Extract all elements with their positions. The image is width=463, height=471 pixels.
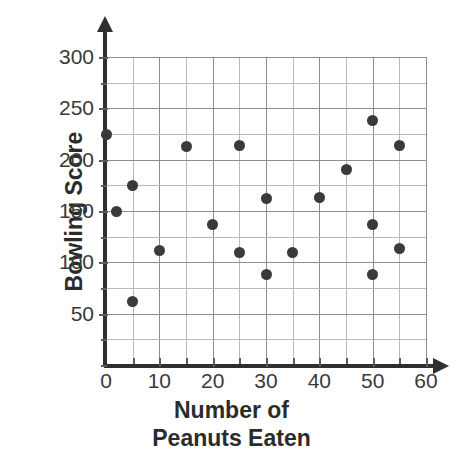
data-point — [154, 245, 165, 256]
data-point — [261, 193, 272, 204]
data-point — [101, 129, 112, 140]
gridline-horizontal-major — [106, 314, 426, 315]
x-axis-line — [104, 364, 438, 368]
x-axis-tick-label: 20 — [185, 369, 241, 393]
y-axis-tick-mark — [99, 57, 108, 59]
y-axis-tick-label: 150 — [36, 199, 94, 223]
x-axis-tick-label: 40 — [291, 369, 347, 393]
data-point — [287, 247, 298, 258]
x-axis-tick-label: 0 — [78, 369, 134, 393]
y-axis-minor-tick-mark — [101, 185, 107, 187]
y-axis-tick-label: 250 — [36, 96, 94, 120]
x-axis-minor-tick-mark — [186, 358, 188, 364]
data-point — [111, 206, 122, 217]
x-axis-tick-mark — [319, 358, 321, 367]
scatter-plot-figure: Bowling Score Number of Peanuts Eaten 50… — [0, 0, 463, 471]
y-axis-arrow-icon — [97, 16, 113, 32]
data-point — [181, 141, 192, 152]
gridline-horizontal-major — [106, 57, 426, 58]
data-point — [367, 219, 378, 230]
gridline-horizontal-major — [106, 108, 426, 109]
x-axis-minor-tick-mark — [399, 358, 401, 364]
y-axis-minor-tick-mark — [101, 237, 107, 239]
x-axis-minor-tick-mark — [293, 358, 295, 364]
x-axis-tick-label: 60 — [398, 369, 454, 393]
data-point — [234, 140, 245, 151]
plot-area — [106, 57, 426, 365]
data-point — [207, 219, 218, 230]
data-point — [394, 140, 405, 151]
x-axis-tick-mark — [266, 358, 268, 367]
data-point — [127, 180, 138, 191]
y-axis-tick-mark — [99, 160, 108, 162]
y-axis-minor-tick-mark — [101, 83, 107, 85]
data-point — [341, 164, 352, 175]
gridline-horizontal-minor — [106, 339, 426, 340]
gridline-horizontal-minor — [106, 83, 426, 84]
gridline-horizontal-minor — [106, 288, 426, 289]
gridline-horizontal-minor — [106, 134, 426, 135]
x-axis-tick-mark — [426, 358, 428, 367]
y-axis-line — [103, 30, 107, 367]
gridline-horizontal-major — [106, 160, 426, 161]
y-axis-minor-tick-mark — [101, 365, 107, 367]
y-axis-tick-label: 100 — [36, 250, 94, 274]
x-axis-tick-label: 30 — [238, 369, 294, 393]
y-axis-tick-mark — [99, 108, 108, 110]
data-point — [127, 296, 138, 307]
data-point — [234, 247, 245, 258]
y-axis-minor-tick-mark — [101, 339, 107, 341]
gridline-horizontal-major — [106, 262, 426, 263]
x-axis-title-line-1: Number of — [174, 397, 289, 423]
y-axis-tick-mark — [99, 211, 108, 213]
gridline-vertical-major — [426, 57, 427, 365]
x-axis-minor-tick-mark — [133, 358, 135, 364]
x-axis-tick-label: 50 — [345, 369, 401, 393]
y-axis-tick-label: 300 — [36, 45, 94, 69]
x-axis-title-line-2: Peanuts Eaten — [0, 424, 463, 452]
gridline-horizontal-major — [106, 211, 426, 212]
x-axis-tick-mark — [213, 358, 215, 367]
x-axis-tick-mark — [159, 358, 161, 367]
x-axis-tick-mark — [373, 358, 375, 367]
data-point — [261, 269, 272, 280]
x-axis-tick-label: 10 — [131, 369, 187, 393]
y-axis-tick-label: 50 — [36, 302, 94, 326]
gridline-horizontal-minor — [106, 237, 426, 238]
y-axis-tick-label: 200 — [36, 148, 94, 172]
x-axis-minor-tick-mark — [346, 358, 348, 364]
y-axis-tick-mark — [99, 262, 108, 264]
y-axis-tick-mark — [99, 314, 108, 316]
y-axis-minor-tick-mark — [101, 288, 107, 290]
data-point — [314, 192, 325, 203]
x-axis-minor-tick-mark — [239, 358, 241, 364]
x-axis-title: Number of Peanuts Eaten — [0, 396, 463, 452]
gridline-horizontal-minor — [106, 185, 426, 186]
